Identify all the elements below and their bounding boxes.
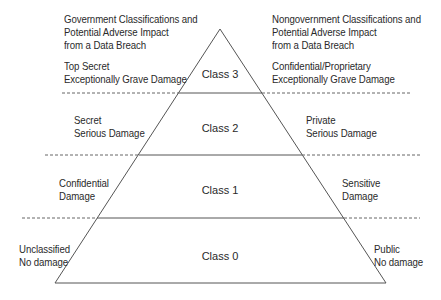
gov-level-top-secret: Top Secret Exceptionally Grave Damage <box>64 60 187 86</box>
nongovernment-header-line-3: from a Data Breach <box>272 39 421 52</box>
gov-impact: No damage <box>19 256 70 269</box>
gov-classification-name: Top Secret <box>64 60 187 73</box>
nongov-classification-name: Confidential/Proprietary <box>272 60 395 73</box>
gov-impact: Serious Damage <box>74 127 145 140</box>
gov-level-unclassified: Unclassified No damage <box>19 243 70 269</box>
government-header-line-3: from a Data Breach <box>64 39 198 52</box>
nongov-classification-name: Sensitive <box>342 177 380 190</box>
class-0-label: Class 0 <box>202 250 239 263</box>
gov-level-confidential: Confidential Damage <box>59 177 109 203</box>
nongov-classification-name: Private <box>306 114 377 127</box>
gov-classification-name: Confidential <box>59 177 109 190</box>
government-header: Government Classifications and Potential… <box>64 13 198 52</box>
nongovernment-header-line-2: Potential Adverse Impact <box>272 26 421 39</box>
gov-level-secret: Secret Serious Damage <box>74 114 145 140</box>
nongov-level-confidential-proprietary: Confidential/Proprietary Exceptionally G… <box>272 60 395 86</box>
government-header-line-1: Government Classifications and <box>64 13 198 26</box>
class-2-label: Class 2 <box>202 122 239 135</box>
gov-impact: Damage <box>59 190 109 203</box>
gov-classification-name: Secret <box>74 114 145 127</box>
nongov-classification-name: Public <box>374 243 423 256</box>
nongov-impact: Exceptionally Grave Damage <box>272 73 395 86</box>
class-3-label: Class 3 <box>202 68 239 81</box>
government-header-line-2: Potential Adverse Impact <box>64 26 198 39</box>
nongovernment-header-line-1: Nongovernment Classifications and <box>272 13 421 26</box>
gov-impact: Exceptionally Grave Damage <box>64 73 187 86</box>
nongov-impact: No damage <box>374 256 423 269</box>
class-1-label: Class 1 <box>202 184 239 197</box>
nongov-level-private: Private Serious Damage <box>306 114 377 140</box>
nongov-impact: Damage <box>342 190 380 203</box>
nongov-level-public: Public No damage <box>374 243 423 269</box>
nongov-impact: Serious Damage <box>306 127 377 140</box>
nongov-level-sensitive: Sensitive Damage <box>342 177 380 203</box>
nongovernment-header: Nongovernment Classifications and Potent… <box>272 13 421 52</box>
gov-classification-name: Unclassified <box>19 243 70 256</box>
